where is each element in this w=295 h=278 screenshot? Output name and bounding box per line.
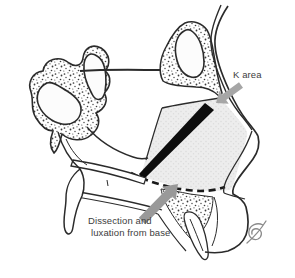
k-area-label: K area	[233, 69, 262, 80]
septum-diagram: K area Dissection and luxation from base	[0, 0, 295, 278]
dissection-label-line2: luxation from base	[91, 227, 170, 238]
septum-figure: K area Dissection and luxation from base	[0, 0, 295, 278]
dissection-label-line1: Dissection and	[88, 215, 152, 226]
